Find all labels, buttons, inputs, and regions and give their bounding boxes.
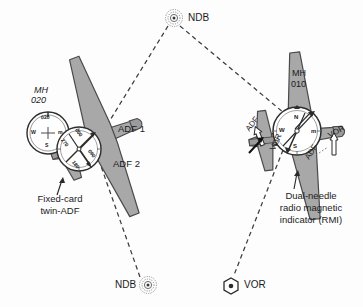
left-aircraft-caption-line2: twin-ADF	[19, 205, 101, 217]
left-hi-right-mark: m	[58, 130, 63, 136]
rmi-card-left-mark: W	[279, 127, 285, 134]
right-aircraft-caption-line3: indicator (RMI)	[262, 214, 360, 226]
navaid-label-ndb-bottom: NDB	[115, 279, 136, 290]
left-hi-top-mark: 020	[41, 115, 50, 121]
bearing-label-adf-1: ADF 1	[118, 124, 145, 135]
right-aircraft-mh-prefix: MH	[292, 68, 306, 78]
left-aircraft-mh-value: 020	[31, 95, 46, 105]
navaid-label-ndb-top: NDB	[188, 12, 209, 23]
figure-canvas: NDB NDB VOR MH 020 020 W S m 000 090 180…	[0, 0, 363, 307]
navaid-vor-bottom[interactable]	[224, 278, 238, 294]
left-aircraft-mh-prefix: MH	[34, 85, 48, 95]
bearing-label-adf-2: ADF 2	[113, 159, 140, 170]
navaid-label-vor-bottom: VOR	[244, 279, 266, 290]
rmi-card-bottom-mark: S	[293, 143, 297, 150]
right-aircraft-mh-value: 010	[291, 79, 306, 89]
left-hi-left-mark: W	[31, 130, 36, 136]
right-aircraft-caption-line1: Dual-needle	[262, 190, 360, 202]
navaid-ndb-bottom[interactable]	[140, 277, 157, 294]
rmi-card-top-mark: N	[294, 114, 298, 121]
left-aircraft-caption-line1: Fixed-card	[19, 193, 101, 205]
navaid-ndb-top[interactable]	[166, 10, 183, 27]
left-hi-bottom-mark: S	[45, 143, 48, 149]
rmi-card-right-mark: m	[311, 128, 316, 135]
right-aircraft-caption-line2: radio magnetic	[262, 202, 360, 214]
bearing-line-ndb-top-to-left-aircraft	[104, 26, 168, 130]
bearing-line-ndb-top-to-right-aircraft	[180, 26, 290, 118]
